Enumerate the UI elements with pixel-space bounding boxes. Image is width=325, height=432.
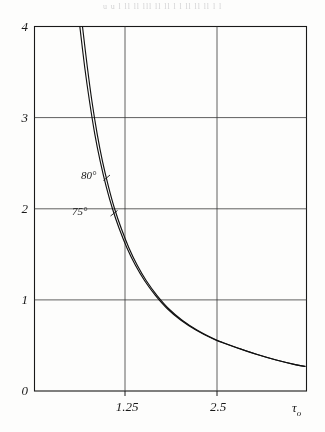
chart-plot-area bbox=[0, 0, 325, 432]
curve-75deg bbox=[80, 27, 305, 367]
x-tick-label-1-25: 1.25 bbox=[108, 400, 146, 413]
curve-80deg bbox=[82, 27, 305, 367]
x-axis-ticks bbox=[125, 391, 217, 396]
y-tick-label-0: 0 bbox=[6, 384, 28, 397]
y-tick-label-1: 1 bbox=[6, 293, 28, 306]
y-tick-label-4: 4 bbox=[6, 20, 28, 33]
x-axis-label-subscript: o bbox=[297, 408, 302, 418]
curve-annotation-75deg: 75° bbox=[72, 206, 87, 217]
chart-figure: 4 3 2 1 0 1.25 2.5 τo 80° 75° bbox=[0, 0, 325, 432]
y-tick-label-2: 2 bbox=[6, 202, 28, 215]
series-paths bbox=[80, 27, 305, 367]
figure-page: u u l ll ll lll ll ll l l ll ll ll l l bbox=[0, 0, 325, 432]
x-axis-label: τo bbox=[292, 401, 301, 418]
curve-annotation-80deg: 80° bbox=[81, 170, 96, 181]
y-tick-label-3: 3 bbox=[6, 111, 28, 124]
x-tick-label-2-5: 2.5 bbox=[202, 400, 234, 413]
